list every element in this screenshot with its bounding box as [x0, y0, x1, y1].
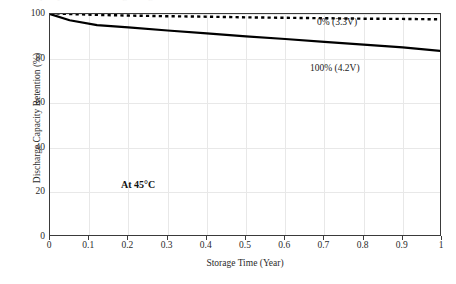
y-tick-label: 100	[5, 8, 45, 18]
series-label-100pct: 100% (4.2V)	[310, 63, 360, 73]
x-axis-title: Storage Time (Year)	[49, 258, 441, 268]
plot-area: At 45°C	[49, 13, 441, 236]
x-tick-label: 0.4	[186, 240, 226, 251]
x-tick-label: 0.2	[107, 240, 147, 251]
x-tick-label: 0.7	[303, 240, 343, 251]
x-tick-label: 0.3	[147, 240, 187, 251]
x-tick-label: 0	[29, 240, 69, 251]
series-plot	[50, 14, 441, 236]
series-label-0pct: 0% (3.3V)	[317, 17, 357, 27]
x-tick-label: 0.6	[264, 240, 304, 251]
x-axis-tick-labels: 00.10.20.30.40.50.60.70.80.91	[49, 240, 441, 254]
x-tick-label: 0.5	[225, 240, 265, 251]
x-tick-label: 0.8	[343, 240, 383, 251]
temperature-annotation: At 45°C	[121, 179, 155, 190]
chart-figure: Capacity Retention During Storage At 45°…	[0, 0, 456, 284]
plot-wrapper: At 45°C 0% (3.3V) 100% (4.2V) 0204060801…	[0, 0, 456, 284]
x-tick-label: 1	[421, 240, 456, 251]
y-axis-title: Discharge Capacity Retention (%)	[32, 18, 42, 218]
x-tick-label: 0.1	[68, 240, 108, 251]
series-line-100pct	[50, 14, 441, 51]
series-line-0pct	[50, 14, 441, 19]
x-tick-label: 0.9	[382, 240, 422, 251]
